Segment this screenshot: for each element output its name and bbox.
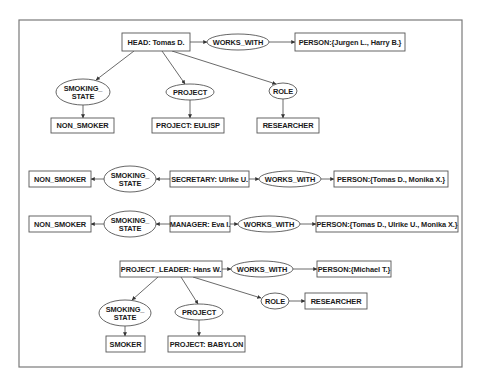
concept-node-g1-nonsmoker: NON_SMOKER: [51, 118, 114, 133]
node-label: WORKS_WITH: [244, 220, 294, 229]
node-label: WORKS_WITH: [237, 265, 287, 274]
node-label: ROLE: [273, 87, 293, 96]
node-label: STATE: [114, 313, 137, 322]
relation-node-g2-works: WORKS_WITH: [259, 171, 321, 187]
node-label: MANAGER: Eva I.: [170, 220, 231, 229]
diagram-frame: [19, 20, 462, 367]
node-label: PROJECT_LEADER: Hans W.: [121, 265, 221, 274]
relation-node-g1-project: PROJECT: [166, 84, 214, 100]
relation-node-g4-works: WORKS_WITH: [231, 261, 293, 277]
node-label: SMOKER: [110, 340, 143, 349]
node-label: WORKS_WITH: [265, 175, 315, 184]
concept-node-g1-researcher: RESEARCHER: [257, 118, 319, 133]
relation-node-g2-smoking: SMOKING_STATE: [104, 166, 156, 192]
relation-node-g4-smoking: SMOKING_STATE: [99, 300, 151, 326]
relation-node-g4-role: ROLE: [261, 293, 289, 309]
concept-node-g2-person: PERSON:{Tomas D., Monika X.}: [334, 171, 448, 187]
node-label: NON_SMOKER: [57, 121, 110, 130]
relation-node-g3-smoking: SMOKING_STATE: [104, 211, 156, 237]
node-label: NON_SMOKER: [34, 220, 87, 229]
relation-node-g3-works: WORKS_WITH: [238, 216, 300, 232]
node-label: ROLE: [265, 297, 285, 306]
node-label: PROJECT: BABYLON: [170, 340, 244, 349]
concept-node-g4-babylon: PROJECT: BABYLON: [168, 336, 245, 352]
node-label: RESEARCHER: [263, 121, 315, 130]
relation-node-g4-project: PROJECT: [175, 304, 223, 320]
node-label: STATE: [72, 92, 95, 101]
concept-node-g2-nonsmoker: NON_SMOKER: [29, 171, 91, 187]
node-label: WORKS_WITH: [213, 38, 263, 47]
concept-node-g2-secretary: SECRETARY: Ulrike U.: [170, 171, 249, 187]
relation-node-g1-role: ROLE: [269, 83, 297, 99]
concept-node-g1-eulisp: PROJECT: EULISP: [152, 118, 224, 133]
conceptual-graph-diagram: HEAD: Tomas D.WORKS_WITHPERSON:{Jurgen L…: [0, 0, 481, 387]
node-label: NON_SMOKER: [34, 175, 87, 184]
node-label: PERSON:{Tomas D., Ulrike U., Monika X.}: [317, 220, 458, 229]
concept-node-g3-person: PERSON:{Tomas D., Ulrike U., Monika X.}: [316, 216, 458, 232]
node-label: PROJECT: EULISP: [156, 121, 220, 130]
node-label: PERSON:{Tomas D., Monika X.}: [337, 175, 445, 184]
node-label: SECRETARY: Ulrike U.: [171, 175, 248, 184]
relation-node-g1-smoking: SMOKING_STATE: [56, 79, 110, 105]
concept-node-g4-person: PERSON:{Michael T.}: [317, 261, 391, 277]
node-label: PROJECT: [182, 308, 217, 317]
node-label: PROJECT: [173, 88, 208, 97]
concept-node-g4-leader: PROJECT_LEADER: Hans W.: [120, 261, 222, 277]
node-label: STATE: [119, 179, 142, 188]
concept-node-g4-smoker: SMOKER: [106, 336, 145, 352]
concept-node-g1-person: PERSON:{Jurgen L., Harry B.}: [295, 33, 405, 51]
node-label: HEAD: Tomas D.: [128, 38, 185, 47]
concept-node-g3-nonsmoker: NON_SMOKER: [29, 216, 91, 232]
relation-node-g1-works: WORKS_WITH: [207, 34, 269, 50]
concept-node-g4-researcher: RESEARCHER: [305, 293, 367, 309]
node-label: PERSON:{Jurgen L., Harry B.}: [299, 38, 402, 47]
concept-node-g3-manager: MANAGER: Eva I.: [170, 216, 231, 232]
node-label: STATE: [119, 224, 142, 233]
node-label: PERSON:{Michael T.}: [318, 265, 391, 274]
node-label: RESEARCHER: [311, 297, 363, 306]
concept-node-g1-head: HEAD: Tomas D.: [122, 33, 190, 51]
